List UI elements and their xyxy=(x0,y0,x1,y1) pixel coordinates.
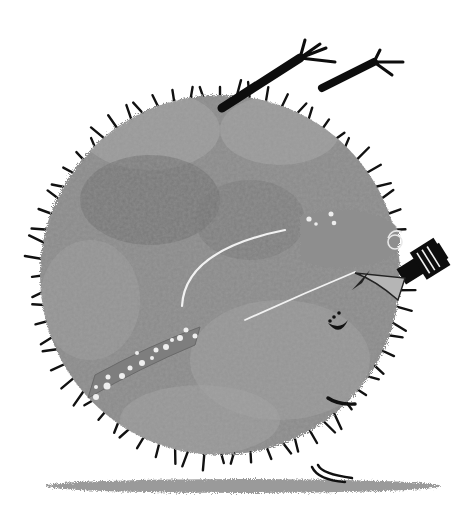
tail-curl xyxy=(312,465,352,482)
creature-illustration xyxy=(0,0,465,517)
illustration-canvas xyxy=(0,0,465,517)
ground-shadow xyxy=(45,479,441,493)
creature-body xyxy=(30,90,410,470)
